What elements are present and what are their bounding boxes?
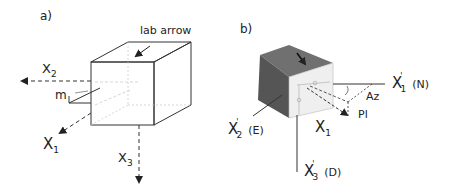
inner-trace [95, 90, 130, 105]
x3-axis-label: X3 [118, 150, 133, 168]
x1-prime-axis-label: X'1(N) [392, 72, 429, 94]
plunge-label: Pl [358, 108, 368, 121]
x3-prime-axis-label: X'3(D) [304, 160, 341, 182]
cube-a-right-face [154, 42, 191, 125]
x2-prime-axis-label: X'2(E) [228, 118, 264, 140]
diagram-canvas: a) lab arrow X2 m [0, 0, 452, 193]
x1-axis [60, 113, 91, 133]
x2-axis-label: X2 [42, 61, 57, 79]
panel-a: a) lab arrow X2 m [22, 9, 191, 182]
panel-b-label: b) [240, 22, 252, 36]
cube-a-hidden-edge [91, 105, 128, 125]
lab-arrow-label: lab arrow [140, 24, 191, 37]
cube-b [258, 45, 333, 118]
lab-arrow-icon [136, 46, 150, 56]
azimuth-arc [345, 86, 348, 95]
m-small-arrow-icon [75, 91, 88, 93]
m-label: m [55, 88, 67, 102]
cube-a [91, 42, 191, 125]
m-direction-line [69, 88, 100, 103]
x1-label: X1 [315, 118, 331, 138]
azimuth-label: Az [366, 90, 380, 103]
panel-a-label: a) [40, 9, 52, 23]
panel-b: b) X'1(N) X'2(E) X'3(D) [228, 22, 429, 182]
m-vector [69, 88, 100, 103]
x1-axis-label: X1 [43, 135, 59, 155]
cube-a-front-face [91, 62, 154, 125]
